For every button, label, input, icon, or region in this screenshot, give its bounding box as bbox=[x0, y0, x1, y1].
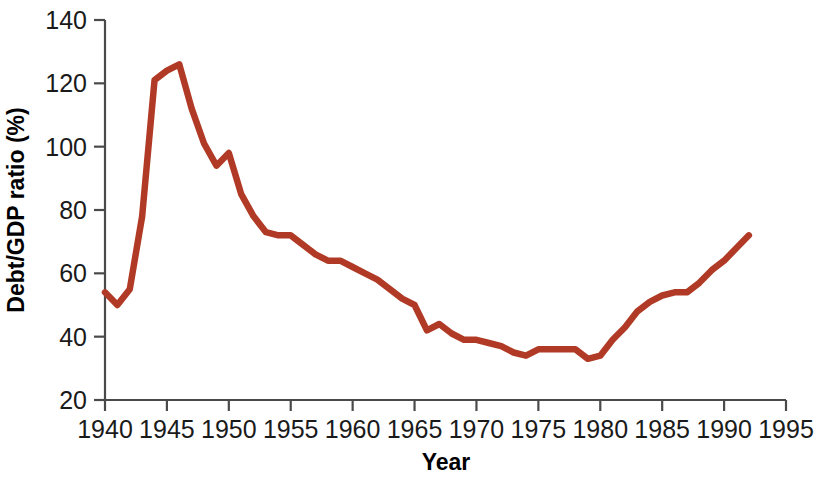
x-tick-label: 1980 bbox=[572, 415, 628, 443]
y-tick-label: 120 bbox=[45, 69, 87, 97]
x-tick-label: 1965 bbox=[387, 415, 443, 443]
x-tick-label: 1960 bbox=[325, 415, 381, 443]
y-tick-label: 140 bbox=[45, 6, 87, 34]
y-tick-label: 80 bbox=[59, 196, 87, 224]
chart-axes bbox=[105, 20, 786, 400]
y-tick-label: 100 bbox=[45, 133, 87, 161]
y-tick-label: 60 bbox=[59, 259, 87, 287]
line-chart: 20406080100120140 1940194519501955196019… bbox=[0, 0, 815, 478]
x-tick-label: 1995 bbox=[758, 415, 814, 443]
x-tick-label: 1970 bbox=[449, 415, 505, 443]
x-tick-label: 1945 bbox=[139, 415, 195, 443]
x-axis-title: Year bbox=[422, 449, 471, 475]
x-axis-ticks: 1940194519501955196019651970197519801985… bbox=[77, 400, 814, 443]
x-tick-label: 1990 bbox=[696, 415, 752, 443]
x-tick-label: 1985 bbox=[634, 415, 690, 443]
x-tick-label: 1975 bbox=[511, 415, 567, 443]
y-tick-label: 40 bbox=[59, 323, 87, 351]
chart-series-group bbox=[105, 64, 749, 359]
x-tick-label: 1940 bbox=[77, 415, 133, 443]
x-tick-label: 1955 bbox=[263, 415, 319, 443]
y-axis-title: Debt/GDP ratio (%) bbox=[3, 107, 29, 312]
chart-series-line bbox=[105, 64, 749, 359]
x-tick-label: 1950 bbox=[201, 415, 257, 443]
chart-container: 20406080100120140 1940194519501955196019… bbox=[0, 0, 815, 478]
y-tick-label: 20 bbox=[59, 386, 87, 414]
y-axis-ticks: 20406080100120140 bbox=[45, 6, 105, 414]
